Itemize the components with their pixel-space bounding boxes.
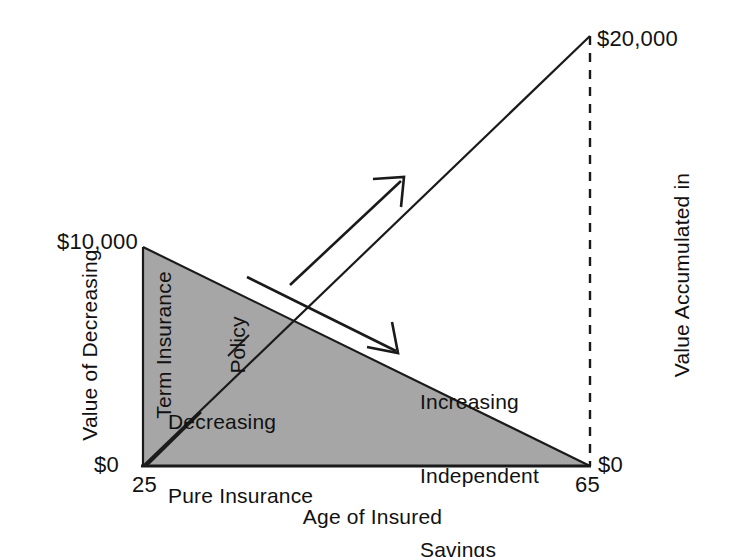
x-axis-title: Age of Insured xyxy=(0,505,745,530)
x-axis-min-tick-label: 25 xyxy=(132,472,157,498)
left-axis-title-line-1: Value of Decreasing xyxy=(78,220,103,470)
right-axis-title: Value Accumulated in Concurrent Savings … xyxy=(620,110,745,440)
insurance-annotation-line-2: Pure Insurance xyxy=(168,484,313,509)
right-axis-max-tick-label: $20,000 xyxy=(597,26,678,52)
decreasing-pure-insurance-annotation: Decreasing Pure Insurance xyxy=(168,360,313,557)
savings-annotation-line-1: Increasing xyxy=(420,390,539,415)
insurance-savings-chart: $10,000 $0 $20,000 $0 25 65 Age of Insur… xyxy=(0,0,745,557)
savings-annotation-line-3: Savings xyxy=(420,538,539,557)
increasing-independent-savings-annotation: Increasing Independent Savings xyxy=(420,340,539,557)
x-axis-max-tick-label: 65 xyxy=(575,472,600,498)
insurance-annotation-line-1: Decreasing xyxy=(168,410,313,435)
right-axis-title-line-1: Value Accumulated in xyxy=(670,110,695,440)
right-axis-min-tick-label: $0 xyxy=(598,452,623,478)
savings-annotation-line-2: Independent xyxy=(420,464,539,489)
